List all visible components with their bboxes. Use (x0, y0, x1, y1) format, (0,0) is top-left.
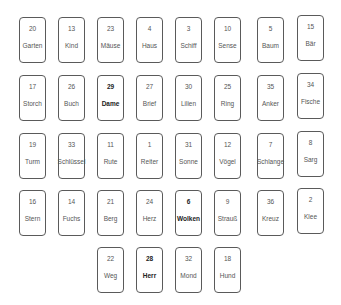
card-number: 26 (59, 83, 84, 91)
card[interactable]: 5Baum (257, 17, 284, 63)
card[interactable]: 20Garten (19, 17, 46, 63)
card-name: Anker (254, 100, 287, 108)
card-number: 27 (137, 83, 162, 91)
card-name: Rute (94, 158, 127, 166)
card-name: Haus (133, 42, 166, 50)
card[interactable]: 30Lilien (175, 75, 202, 121)
card-name: Sonne (172, 158, 205, 166)
card-number: 6 (176, 198, 201, 206)
card-number: 10 (215, 25, 240, 33)
card-name: Kind (55, 42, 88, 50)
card[interactable]: 12Vögel (214, 133, 241, 179)
card[interactable]: 26Buch (58, 75, 85, 121)
card[interactable]: 8Sarg (297, 131, 324, 177)
card-name: Hund (211, 272, 244, 280)
card-name: Turm (16, 158, 49, 166)
card-name: Vögel (211, 158, 244, 166)
card[interactable]: 18Hund (214, 247, 241, 293)
card-number: 25 (215, 83, 240, 91)
card-number: 36 (258, 198, 283, 206)
card-name: Storch (16, 100, 49, 108)
card-name: Mond (172, 272, 205, 280)
card[interactable]: 22Weg (97, 247, 124, 293)
card[interactable]: 10Sense (214, 17, 241, 63)
card[interactable]: 19Turm (19, 133, 46, 179)
card[interactable]: 17Storch (19, 75, 46, 121)
card[interactable]: 1Reiter (136, 133, 163, 179)
card-name: Herr (133, 272, 166, 280)
card-name: Schiff (172, 42, 205, 50)
card[interactable]: 29Dame (97, 75, 124, 121)
card-name: Baum (254, 42, 287, 50)
card-number: 18 (215, 255, 240, 263)
card-name: Strauß (211, 215, 244, 223)
card[interactable]: 9Strauß (214, 190, 241, 236)
card-name: Berg (94, 215, 127, 223)
card-name: Garten (16, 42, 49, 50)
card-name: Fuchs (55, 215, 88, 223)
card-name: Herz (133, 215, 166, 223)
card-number: 16 (20, 198, 45, 206)
card[interactable]: 4Haus (136, 17, 163, 63)
card-number: 3 (176, 25, 201, 33)
card-name: Ring (211, 100, 244, 108)
card-number: 29 (98, 83, 123, 91)
card-number: 12 (215, 141, 240, 149)
card[interactable]: 35Anker (257, 75, 284, 121)
card-name: Buch (55, 100, 88, 108)
card[interactable]: 16Stern (19, 190, 46, 236)
card-number: 2 (298, 196, 323, 204)
card-number: 4 (137, 25, 162, 33)
card-number: 34 (298, 81, 323, 89)
card-number: 21 (98, 198, 123, 206)
card-name: Wolken (172, 215, 205, 223)
card-number: 17 (20, 83, 45, 91)
card[interactable]: 31Sonne (175, 133, 202, 179)
card-name: Stern (16, 215, 49, 223)
card-number: 24 (137, 198, 162, 206)
card-name: Mäuse (94, 42, 127, 50)
card[interactable]: 15Bär (297, 15, 324, 61)
card-number: 19 (20, 141, 45, 149)
card[interactable]: 2Klee (297, 188, 324, 234)
card[interactable]: 14Fuchs (58, 190, 85, 236)
card[interactable]: 3Schiff (175, 17, 202, 63)
card-name: Lilien (172, 100, 205, 108)
card-number: 32 (176, 255, 201, 263)
card-number: 11 (98, 141, 123, 149)
card-number: 31 (176, 141, 201, 149)
card-number: 9 (215, 198, 240, 206)
card-name: Sarg (294, 156, 327, 164)
card-name: Bär (294, 40, 327, 48)
card[interactable]: 11Rute (97, 133, 124, 179)
card[interactable]: 7Schlange (257, 133, 284, 179)
card-name: Sense (211, 42, 244, 50)
card-name: Klee (294, 213, 327, 221)
card-name: Reiter (133, 158, 166, 166)
card-number: 33 (59, 141, 84, 149)
card[interactable]: 24Herz (136, 190, 163, 236)
card[interactable]: 21Berg (97, 190, 124, 236)
card-name: Dame (94, 100, 127, 108)
card[interactable]: 34Fische (297, 73, 324, 119)
card[interactable]: 33Schlüssel (58, 133, 85, 179)
card-name: Brief (133, 100, 166, 108)
card[interactable]: 13Kind (58, 17, 85, 63)
card-number: 23 (98, 25, 123, 33)
card[interactable]: 32Mond (175, 247, 202, 293)
card[interactable]: 23Mäuse (97, 17, 124, 63)
card-number: 1 (137, 141, 162, 149)
card[interactable]: 36Kreuz (257, 190, 284, 236)
card-number: 8 (298, 139, 323, 147)
card[interactable]: 25Ring (214, 75, 241, 121)
card-number: 15 (298, 23, 323, 31)
card[interactable]: 6Wolken (175, 190, 202, 236)
card-number: 35 (258, 83, 283, 91)
card-name: Kreuz (254, 215, 287, 223)
card[interactable]: 28Herr (136, 247, 163, 293)
card-number: 20 (20, 25, 45, 33)
card-number: 14 (59, 198, 84, 206)
card-number: 22 (98, 255, 123, 263)
card[interactable]: 27Brief (136, 75, 163, 121)
card-number: 7 (258, 141, 283, 149)
